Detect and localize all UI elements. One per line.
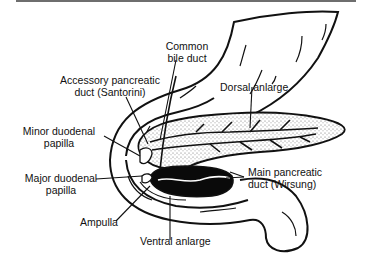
label-line: Major duodenal [16, 172, 106, 184]
label-major-papilla: Major duodenal papilla [16, 172, 106, 196]
label-dorsal-anlarge: Dorsal anlarge [220, 81, 288, 93]
label-line: Ventral anlarge [140, 235, 211, 247]
label-line: duct (Wirsung) [248, 178, 322, 190]
label-line: papilla [16, 184, 106, 196]
papillae [140, 148, 152, 183]
label-minor-papilla: Minor duodenal papilla [14, 125, 104, 149]
label-ampulla: Ampulla [80, 216, 118, 228]
label-main-duct: Main pancreatic duct (Wirsung) [248, 166, 322, 190]
label-line: Accessory pancreatic [50, 74, 170, 86]
label-line: bile duct [152, 52, 222, 64]
dorsal-anlage [138, 113, 344, 169]
label-accessory-duct: Accessory pancreatic duct (Santorini) [50, 74, 170, 98]
label-line: duct (Santorini) [50, 86, 170, 98]
label-line: Minor duodenal [14, 125, 104, 137]
label-ventral-anlarge: Ventral anlarge [140, 235, 211, 247]
label-line: papilla [14, 137, 104, 149]
label-line: Dorsal anlarge [220, 81, 288, 93]
label-line: Ampulla [80, 216, 118, 228]
label-common-bile-duct: Common bile duct [152, 40, 222, 64]
label-line: Main pancreatic [248, 166, 322, 178]
label-line: Common [152, 40, 222, 52]
